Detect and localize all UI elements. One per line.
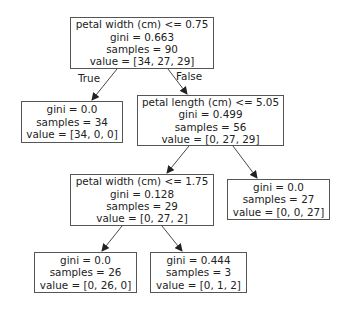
node-line: gini = 0.0 — [22, 103, 122, 115]
edge-label-false: False — [176, 70, 202, 82]
edge-length-leaf27 — [233, 146, 257, 178]
tree-node-split-length: petal length (cm) <= 5.05 gini = 0.499 s… — [137, 95, 284, 146]
node-line: value = [0, 26, 0] — [35, 279, 136, 291]
node-line: value = [34, 0, 0] — [22, 128, 122, 140]
tree-node-split-width2: petal width (cm) <= 1.75 gini = 0.128 sa… — [70, 174, 214, 226]
node-line: samples = 26 — [35, 266, 136, 278]
node-line: samples = 3 — [151, 266, 246, 278]
node-line: samples = 90 — [71, 43, 213, 55]
node-line: value = [0, 0, 27] — [228, 206, 329, 218]
edge-label-true: True — [78, 72, 100, 84]
node-line: gini = 0.0 — [228, 181, 329, 193]
node-line: petal length (cm) <= 5.05 — [138, 96, 283, 108]
edge-width2-leaf26 — [102, 226, 122, 251]
edge-width2-leaf3 — [162, 226, 182, 251]
node-line: value = [0, 27, 29] — [138, 133, 283, 145]
node-line: gini = 0.499 — [138, 108, 283, 120]
node-line: samples = 34 — [22, 116, 122, 128]
node-line: gini = 0.663 — [71, 31, 213, 43]
node-line: petal width (cm) <= 1.75 — [71, 175, 213, 187]
node-line: gini = 0.128 — [71, 188, 213, 200]
node-line: samples = 29 — [71, 200, 213, 212]
node-line: petal width (cm) <= 0.75 — [71, 18, 213, 30]
node-line: value = [0, 27, 2] — [71, 212, 213, 224]
node-line: value = [34, 27, 29] — [71, 55, 213, 67]
tree-node-root: petal width (cm) <= 0.75 gini = 0.663 sa… — [70, 17, 214, 69]
tree-node-leaf-26: gini = 0.0 samples = 26 value = [0, 26, … — [34, 252, 137, 293]
node-line: gini = 0.444 — [151, 254, 246, 266]
edge-length-width2 — [167, 146, 189, 173]
tree-node-leaf-left: gini = 0.0 samples = 34 value = [34, 0, … — [21, 101, 123, 143]
tree-node-leaf-27: gini = 0.0 samples = 27 value = [0, 0, 2… — [227, 179, 330, 220]
node-line: gini = 0.0 — [35, 254, 136, 266]
node-line: value = [0, 1, 2] — [151, 279, 246, 291]
tree-node-leaf-3: gini = 0.444 samples = 3 value = [0, 1, … — [150, 252, 247, 293]
node-line: samples = 27 — [228, 193, 329, 205]
node-line: samples = 56 — [138, 121, 283, 133]
